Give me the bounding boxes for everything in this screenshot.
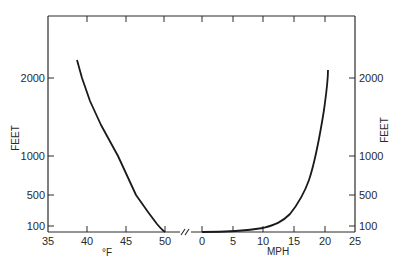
svg-text:0: 0 <box>199 235 205 247</box>
svg-text:100: 100 <box>359 220 377 232</box>
svg-text:15: 15 <box>288 235 300 247</box>
svg-text:25: 25 <box>349 235 361 247</box>
wind-speed-curve <box>202 70 328 232</box>
svg-text:1000: 1000 <box>21 150 45 162</box>
left-y-ticks <box>48 78 54 226</box>
svg-text:5: 5 <box>230 235 236 247</box>
svg-text:1000: 1000 <box>359 150 383 162</box>
plot-frame <box>48 16 355 232</box>
svg-text:100: 100 <box>27 220 45 232</box>
right-y-axis-title: FEET <box>379 117 390 143</box>
axis-break-mark <box>181 229 189 235</box>
temp-x-axis-title: °F <box>102 247 112 258</box>
svg-text:20: 20 <box>319 235 331 247</box>
left-y-labels: 2000 1000 500 100 <box>21 72 45 232</box>
svg-text:35: 35 <box>42 235 54 247</box>
svg-text:500: 500 <box>359 189 377 201</box>
svg-text:2000: 2000 <box>359 72 383 84</box>
svg-text:50: 50 <box>159 235 171 247</box>
right-y-labels: 2000 1000 500 100 <box>359 72 383 232</box>
top-ticks <box>87 16 325 22</box>
wind-x-axis-title: MPH <box>267 246 289 257</box>
svg-text:2000: 2000 <box>21 72 45 84</box>
temperature-curve <box>77 60 165 232</box>
dual-axis-line-chart: 2000 1000 500 100 2000 1000 500 100 FEET… <box>0 0 402 260</box>
svg-text:40: 40 <box>81 235 93 247</box>
left-y-axis-title: FEET <box>10 125 21 151</box>
svg-text:500: 500 <box>27 189 45 201</box>
temp-x-labels: 35 40 45 50 <box>42 235 171 247</box>
right-y-ticks <box>349 78 355 226</box>
svg-text:45: 45 <box>120 235 132 247</box>
